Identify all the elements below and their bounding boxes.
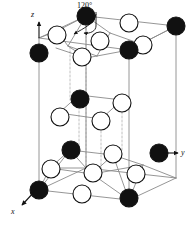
- filled-atom: [120, 41, 138, 59]
- filled-atom: [62, 141, 80, 159]
- open-atom: [92, 112, 110, 130]
- crystal-structure-figure: 120° z y x: [0, 0, 192, 225]
- y-axis-label: y: [181, 149, 185, 157]
- top-layer-atoms: [30, 7, 185, 66]
- open-atom: [84, 164, 102, 182]
- unit-cell-drawing: [0, 0, 192, 225]
- z-axis-label: z: [31, 11, 34, 19]
- angle-annotation-label: 120°: [77, 2, 92, 10]
- filled-atom: [120, 189, 138, 207]
- open-atom: [48, 26, 66, 44]
- open-atom: [91, 32, 109, 50]
- open-atom: [104, 145, 122, 163]
- open-atom: [42, 160, 60, 178]
- open-atom: [51, 108, 69, 126]
- open-atom: [113, 94, 131, 112]
- open-atom: [127, 165, 145, 183]
- filled-atom: [167, 17, 185, 35]
- open-atom: [73, 185, 91, 203]
- x-axis-label: x: [11, 208, 15, 216]
- filled-atom: [30, 181, 48, 199]
- filled-atom: [71, 90, 89, 108]
- open-atom: [120, 14, 138, 32]
- open-atom: [73, 48, 91, 66]
- filled-atom: [30, 44, 48, 62]
